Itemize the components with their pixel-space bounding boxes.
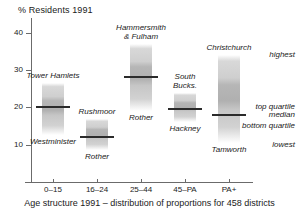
- chart-container: % Residents 1991 10203040 0–1516–2425–44…: [0, 0, 299, 213]
- lowest-district-label: Rother: [52, 152, 142, 161]
- median-line: [212, 114, 246, 116]
- x-tick-mark: [141, 179, 142, 183]
- highest-district-label: South Bucks.: [140, 72, 230, 90]
- lowest-district-label: Westminister: [8, 137, 98, 146]
- distribution-bar: [218, 55, 240, 143]
- x-tick-mark: [97, 179, 98, 183]
- x-tick-mark: [53, 179, 54, 183]
- y-tick-label: 20: [5, 103, 23, 111]
- distribution-bar: [86, 119, 108, 151]
- x-tick-label: 45–PA: [163, 186, 207, 194]
- chart-caption: Age structure 1991 – distribution of pro…: [0, 198, 299, 208]
- legend-label-bottom-quartile: bottom quartile: [242, 122, 295, 130]
- y-tick-mark: [26, 107, 31, 108]
- median-line: [168, 108, 202, 110]
- y-axis-line: [31, 18, 32, 182]
- x-tick-label: 0–15: [31, 186, 75, 194]
- x-axis-line: [25, 182, 253, 183]
- x-tick-mark: [185, 179, 186, 183]
- lowest-district-label: Tamworth: [184, 145, 274, 154]
- highest-district-label: Christchurch: [184, 43, 274, 52]
- lowest-district-label: Rother: [96, 113, 186, 122]
- x-tick-mark: [229, 179, 230, 183]
- legend-label-lowest: lowest: [272, 141, 295, 149]
- x-tick-label: 16–24: [75, 186, 119, 194]
- legend-label-median: median: [269, 111, 295, 119]
- y-tick-label: 40: [5, 29, 23, 37]
- median-line: [80, 136, 114, 138]
- chart-title: % Residents 1991: [18, 5, 93, 15]
- highest-district-label: Tower Hamlets: [8, 71, 98, 80]
- highest-district-label: Hammersmith & Fulham: [96, 23, 186, 41]
- lowest-district-label: Hackney: [140, 124, 230, 133]
- x-tick-label: 25–44: [119, 186, 163, 194]
- x-tick-label: PA+: [207, 186, 251, 194]
- legend-label-highest: highest: [269, 51, 295, 59]
- y-tick-mark: [26, 33, 31, 34]
